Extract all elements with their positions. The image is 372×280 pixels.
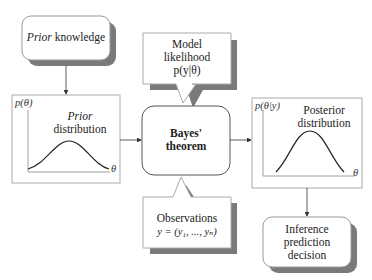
bayes-line2: theorem — [142, 140, 230, 153]
prior-knowledge-italic: Prior — [27, 31, 52, 43]
bayes-theorem-label: Bayes' theorem — [142, 127, 230, 153]
posterior-title-line2: distribution — [284, 117, 364, 130]
inference-label: Inference prediction decision — [263, 223, 351, 262]
prior-x-axis-label: θ — [111, 163, 116, 174]
model-likelihood-label: Model likelihood p(y|θ) — [143, 38, 231, 77]
inference-line3: decision — [263, 249, 351, 262]
inference-line2: prediction — [263, 236, 351, 249]
prior-knowledge-label: Prior knowledge — [22, 31, 110, 44]
posterior-title-line1: Posterior — [284, 104, 364, 117]
posterior-y-axis-label: p(θ|y) — [255, 100, 280, 111]
model-likelihood-line2: likelihood — [143, 51, 231, 64]
prior-knowledge-rest: knowledge — [52, 31, 105, 43]
bayes-line1: Bayes' — [142, 127, 230, 140]
prior-title-rest: distribution — [40, 123, 120, 136]
inference-line1: Inference — [263, 223, 351, 236]
prior-distribution-title: Prior distribution — [40, 110, 120, 136]
posterior-x-axis-label: θ — [353, 167, 358, 178]
observations-label: Observations y = (y₁, ..., yₙ) — [143, 212, 231, 238]
prior-title-italic: Prior — [40, 110, 120, 123]
observations-line1: Observations — [143, 212, 231, 225]
observations-line2: y = (y₁, ..., yₙ) — [143, 225, 231, 238]
prior-y-axis-label: p(θ) — [15, 97, 32, 108]
model-likelihood-line1: Model — [143, 38, 231, 51]
model-likelihood-line3: p(y|θ) — [143, 64, 231, 77]
prior-distribution-box — [12, 95, 120, 183]
posterior-distribution-title: Posterior distribution — [284, 104, 364, 130]
